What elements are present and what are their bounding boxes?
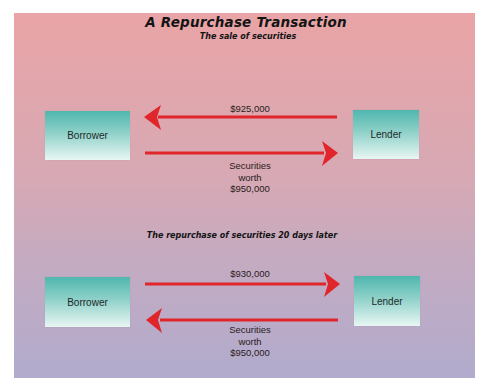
sale-securities-arrow-right-icon [145,141,338,166]
repurchase-cash-arrow-right-icon [145,272,340,297]
repurchase-securities-arrow-left-icon [146,308,338,333]
sale-cash-arrow-left-icon [144,105,337,130]
flow-arrows [0,0,484,385]
